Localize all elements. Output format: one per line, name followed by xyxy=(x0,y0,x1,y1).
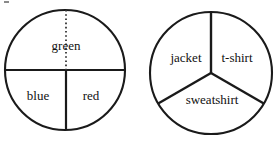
clothing-spinner[interactable]: jacket t-shirt sweatshirt xyxy=(150,12,272,134)
sector-label-jacket: jacket xyxy=(169,50,201,65)
sector-label-sweatshirt: sweatshirt xyxy=(186,92,239,107)
color-spinner[interactable]: green blue red xyxy=(5,10,125,130)
sector-label-green: green xyxy=(52,38,81,53)
spinner-figure-canvas: green blue red jacket t-shirt sweatshirt xyxy=(0,0,277,142)
sector-label-t-shirt: t-shirt xyxy=(221,50,252,65)
sector-label-red: red xyxy=(83,88,100,103)
scan-artifact-speck xyxy=(4,1,9,3)
sector-label-blue: blue xyxy=(27,88,50,103)
spinner-figure: green blue red jacket t-shirt sweatshirt xyxy=(0,0,277,142)
